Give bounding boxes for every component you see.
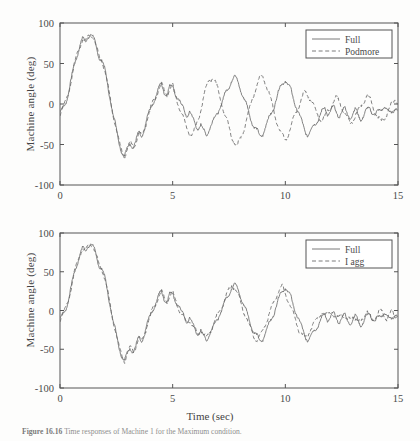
plot-area-top: -100-50050100051015FullPodmore bbox=[0, 0, 420, 212]
x-tick-label: 0 bbox=[57, 393, 62, 404]
x-tick-label: 5 bbox=[170, 190, 175, 201]
y-tick-label: 50 bbox=[44, 267, 55, 278]
chart-panel-top: Machine angle (deg) -100-50050100051015F… bbox=[0, 0, 420, 212]
chart-panel-bottom: Machine angle (deg) -100-50050100051015F… bbox=[0, 210, 420, 410]
y-tick-label: 50 bbox=[44, 59, 55, 70]
y-tick-label: 100 bbox=[38, 18, 54, 29]
chart-legend: FullI agg bbox=[306, 240, 392, 268]
legend-label: Full bbox=[345, 35, 361, 45]
y-tick-label: -100 bbox=[35, 383, 54, 394]
y-tick-label: -50 bbox=[40, 140, 54, 151]
y-tick-label: 0 bbox=[49, 306, 54, 317]
legend-label: Podmore bbox=[345, 47, 379, 57]
y-tick-label: 0 bbox=[49, 99, 54, 110]
y-tick-label: -50 bbox=[40, 344, 54, 355]
x-tick-label: 10 bbox=[280, 393, 291, 404]
y-tick-label: -100 bbox=[35, 180, 54, 191]
figure-container: Machine angle (deg) -100-50050100051015F… bbox=[0, 0, 420, 441]
y-tick-label: 100 bbox=[38, 228, 54, 239]
x-axis-label: Time (sec) bbox=[0, 410, 420, 422]
plot-area-bottom: -100-50050100051015FullI agg bbox=[0, 210, 420, 410]
chart-legend: FullPodmore bbox=[306, 30, 392, 58]
x-tick-label: 15 bbox=[393, 393, 404, 404]
figure-caption: Figure 16.16 Time responses of Machine 1… bbox=[22, 427, 410, 440]
x-tick-label: 10 bbox=[280, 190, 291, 201]
legend-label: Full bbox=[345, 245, 361, 255]
x-tick-label: 5 bbox=[170, 393, 175, 404]
x-tick-label: 0 bbox=[57, 190, 62, 201]
figure-caption-number: Figure 16.16 bbox=[22, 427, 62, 436]
x-tick-label: 15 bbox=[393, 190, 404, 201]
figure-page: Machine angle (deg) -100-50050100051015F… bbox=[0, 0, 420, 441]
figure-caption-text: Time responses of Machine 1 for the Maxi… bbox=[64, 427, 242, 436]
legend-label: I agg bbox=[345, 257, 365, 267]
